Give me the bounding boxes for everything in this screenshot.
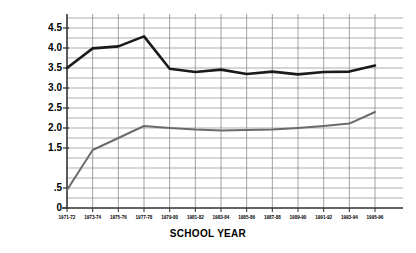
y-tick-label: 4.0 xyxy=(34,42,62,53)
y-tick-label: 0 xyxy=(34,202,62,213)
y-tick-label: 4.5 xyxy=(34,22,62,33)
x-tick-label: 1995-96 xyxy=(358,215,392,220)
vertical-gridlines xyxy=(67,14,375,208)
chart-figure: NUMBER OF ATHLETES (in millions) SCHOOL … xyxy=(0,0,416,253)
y-tick-label: .5 xyxy=(34,182,62,193)
axis-tick-marks xyxy=(63,28,375,212)
y-tick-label: 3.5 xyxy=(34,62,62,73)
y-tick-label: 2.5 xyxy=(34,102,62,113)
axis-lines xyxy=(62,14,403,208)
x-axis-title: SCHOOL YEAR xyxy=(0,228,416,239)
y-tick-label: 1.5 xyxy=(34,142,62,153)
y-tick-label: 2.0 xyxy=(34,122,62,133)
y-tick-label: 3.0 xyxy=(34,82,62,93)
